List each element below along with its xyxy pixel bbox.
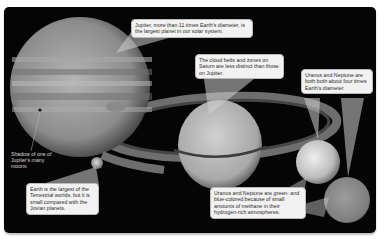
label-moon-shadow: Shadow of one of Jupiter's many moons bbox=[11, 151, 59, 170]
neptune bbox=[324, 177, 370, 223]
saturn bbox=[174, 100, 266, 190]
callout-earth: Earth is the largest of the Terrestrial … bbox=[26, 183, 99, 215]
earth bbox=[91, 157, 103, 169]
callout-jupiter: Jupiter, more than 11 times Earth's diam… bbox=[131, 19, 253, 38]
callout-saturn: The cloud belts and zones on Saturn are … bbox=[195, 54, 284, 79]
figure-panel: Jupiter, more than 11 times Earth's diam… bbox=[4, 7, 376, 233]
uranus bbox=[296, 140, 340, 184]
callout-uranus-neptune-color: Uranus and Neptune are green- and blue-c… bbox=[210, 187, 306, 219]
callout-uranus-neptune-size: Uranus and Neptune are both both about f… bbox=[301, 69, 373, 94]
